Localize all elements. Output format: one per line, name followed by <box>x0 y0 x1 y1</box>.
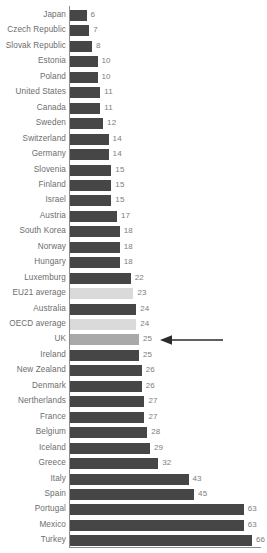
bar-row: Luxemburg22 <box>0 270 267 287</box>
bar-category-label: Turkey <box>41 532 66 549</box>
bar-shape <box>70 412 144 423</box>
bar-value-label: 28 <box>151 424 160 441</box>
bar-category-label: Norway <box>38 239 66 256</box>
bar-value-label: 25 <box>143 347 152 364</box>
bar-shape <box>70 87 100 98</box>
bar-value-label: 24 <box>140 301 149 318</box>
bar-shape <box>70 535 252 546</box>
bar-row: Norway18 <box>0 239 267 256</box>
bar-shape <box>70 474 189 485</box>
bar-value-label: 45 <box>198 486 207 503</box>
bar-category-label: Iceland <box>39 440 66 457</box>
bar-shape <box>70 10 87 21</box>
bar-shape <box>70 41 92 52</box>
bar-row: New Zealand26 <box>0 362 267 379</box>
bar-shape <box>70 350 139 361</box>
bar-row: Hungary18 <box>0 254 267 271</box>
bar-row: Switzerland14 <box>0 131 267 148</box>
bar-category-label: Sweden <box>36 115 66 132</box>
bar-category-label: Canada <box>37 100 66 117</box>
bar-value-label: 11 <box>104 100 113 117</box>
bar-row: OECD average24 <box>0 316 267 333</box>
bar-value-label: 6 <box>91 7 96 24</box>
bar-shape <box>70 489 194 500</box>
bar-row: Slovenia15 <box>0 162 267 179</box>
bar-value-label: 18 <box>124 254 133 271</box>
bar-shape <box>70 381 142 392</box>
bar-row: Turkey66 <box>0 532 267 549</box>
bar-shape <box>70 365 142 376</box>
bar-shape <box>70 458 158 469</box>
bar-row: Portugal63 <box>0 501 267 518</box>
bar-category-label: Switzerland <box>23 131 66 148</box>
bar-category-label: Germany <box>32 146 66 163</box>
bar-value-label: 12 <box>107 115 116 132</box>
bar-shape <box>70 134 109 145</box>
bar-shape <box>70 211 117 222</box>
bar-shape <box>70 72 98 83</box>
bar-value-label: 22 <box>135 270 144 287</box>
bar-value-label: 63 <box>248 501 257 518</box>
bar-category-label: Estonia <box>38 53 66 70</box>
bar-shape <box>70 443 150 454</box>
bar-row: Slovak Republic8 <box>0 38 267 55</box>
bar-shape <box>70 149 109 160</box>
bar-category-label: France <box>40 409 66 426</box>
bar-value-label: 32 <box>162 455 171 472</box>
bar-shape <box>70 504 244 515</box>
bar-value-label: 11 <box>104 84 113 101</box>
bar-category-label: OECD average <box>9 316 66 333</box>
bar-row: Germany14 <box>0 146 267 163</box>
bar-shape <box>70 226 120 237</box>
bar-shape <box>70 118 103 129</box>
bar-category-label: Japan <box>43 7 66 24</box>
bar-row: Australia24 <box>0 301 267 318</box>
bar-row: Spain45 <box>0 486 267 503</box>
bar-row: Austria17 <box>0 208 267 225</box>
bar-value-label: 15 <box>115 177 124 194</box>
horizontal-bar-chart: Japan6Czech Republic7Slovak Republic8Est… <box>0 0 267 553</box>
bar-category-label: Czech Republic <box>7 22 66 39</box>
bar-value-label: 18 <box>124 239 133 256</box>
bar-category-label: Portugal <box>35 501 66 518</box>
bar-category-label: United States <box>16 84 66 101</box>
bar-value-label: 25 <box>143 331 152 348</box>
bar-row: Estonia10 <box>0 53 267 70</box>
bar-row: Iceland29 <box>0 440 267 457</box>
bar-category-label: Italy <box>50 471 66 488</box>
bar-shape <box>70 396 144 407</box>
bar-row: Poland10 <box>0 69 267 86</box>
bar-category-label: New Zealand <box>17 362 66 379</box>
bar-category-label: Israel <box>45 192 66 209</box>
bar-value-label: 15 <box>115 162 124 179</box>
bar-row: EU21 average23 <box>0 285 267 302</box>
bar-value-label: 14 <box>113 146 122 163</box>
bar-row: Israel15 <box>0 192 267 209</box>
bar-category-label: Spain <box>45 486 66 503</box>
bar-category-label: Ireland <box>40 347 66 364</box>
bar-row: Italy43 <box>0 471 267 488</box>
bar-row: Finland15 <box>0 177 267 194</box>
bar-row: UK25 <box>0 331 267 348</box>
bar-value-label: 7 <box>93 22 98 39</box>
bar-shape <box>70 25 89 36</box>
bar-value-label: 14 <box>113 131 122 148</box>
bar-shape <box>70 56 98 67</box>
bar-category-label: UK <box>54 331 66 348</box>
bar-category-label: EU21 average <box>12 285 66 302</box>
bar-category-label: Austria <box>40 208 66 225</box>
bar-row: Denmark26 <box>0 378 267 395</box>
bar-row: Canada11 <box>0 100 267 117</box>
bar-value-label: 26 <box>146 378 155 395</box>
bar-category-label: Hungary <box>34 254 66 271</box>
bar-category-label: Belgium <box>36 424 66 441</box>
bar-shape <box>70 195 111 206</box>
bar-shape <box>70 180 111 191</box>
bar-shape <box>70 520 244 531</box>
bar-category-label: Australia <box>33 301 66 318</box>
bar-value-label: 8 <box>96 38 101 55</box>
bar-shape <box>70 319 136 330</box>
bar-row: Japan6 <box>0 7 267 24</box>
bar-value-label: 24 <box>140 316 149 333</box>
bar-shape <box>70 304 136 315</box>
